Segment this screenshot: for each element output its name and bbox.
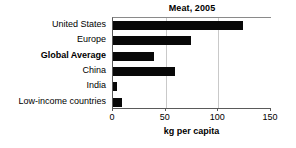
bar-row	[113, 95, 271, 110]
y-axis-label: Global Average	[0, 48, 109, 63]
y-axis-label: China	[0, 63, 109, 78]
bar	[113, 21, 243, 30]
chart-title: Meat, 2005	[112, 3, 272, 13]
bar	[113, 82, 117, 91]
y-axis-label: Low-income countries	[0, 94, 109, 109]
x-axis-ticks: 050100150	[112, 109, 271, 125]
x-tick-label: 150	[255, 112, 285, 122]
bar-row	[113, 33, 271, 48]
x-tick-mark	[270, 109, 271, 111]
bar-row	[113, 49, 271, 64]
x-tick-label: 100	[202, 112, 232, 122]
bar-row	[113, 79, 271, 94]
bar	[113, 67, 175, 76]
bar-chart: Meat, 2005 United StatesEuropeGlobal Ave…	[0, 0, 296, 148]
bar-row	[113, 64, 271, 79]
bar	[113, 36, 191, 45]
y-axis-labels: United StatesEuropeGlobal AverageChinaIn…	[0, 17, 109, 109]
bar-row	[113, 18, 271, 33]
x-tick-mark	[217, 109, 218, 111]
x-tick-label: 0	[97, 112, 127, 122]
y-axis-label: India	[0, 78, 109, 93]
bar	[113, 98, 122, 107]
plot-area	[112, 17, 271, 109]
bars-layer	[113, 18, 271, 108]
bar	[113, 52, 154, 61]
x-tick-mark	[165, 109, 166, 111]
x-axis-title: kg per capita	[112, 126, 271, 136]
x-tick-label: 50	[150, 112, 180, 122]
y-axis-label: Europe	[0, 32, 109, 47]
x-tick-mark	[112, 109, 113, 111]
y-axis-label: United States	[0, 17, 109, 32]
